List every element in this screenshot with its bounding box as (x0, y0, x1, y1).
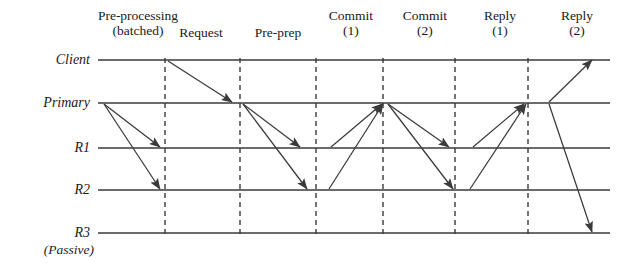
participant-label-r3: R3 (0, 225, 90, 241)
phase-label-pre-processing: Pre-processing(batched) (98, 8, 178, 38)
phase-label-commit-1: Commit(1) (329, 8, 373, 38)
message-arrow-commit1-r1-primary (331, 104, 382, 147)
message-arrow-commit2-primary-r2 (388, 104, 453, 189)
participant-name-r2: R2 (74, 182, 90, 197)
participant-label-r1: R1 (0, 140, 90, 156)
diagram-canvas: ClientPrimaryR1R2R3(Passive) Pre-process… (0, 0, 636, 272)
phase-label-line1-pre-processing: Pre-processing (98, 8, 178, 23)
message-arrow-preproc-primary-r2 (104, 104, 160, 189)
message-arrow-preproc-primary-r1 (104, 104, 160, 147)
phase-label-reply-1: Reply(1) (484, 8, 516, 38)
message-arrow-reply1-r1-primary (473, 104, 524, 147)
phase-label-line2-reply-2: (2) (561, 23, 593, 38)
participant-name-r1: R1 (74, 140, 90, 155)
phase-label-line1-commit-1: Commit (329, 8, 373, 23)
phase-label-request: Request (179, 25, 223, 40)
lifelines-group (98, 60, 610, 233)
phase-label-line1-request: Request (179, 25, 223, 40)
phase-label-line1-commit-2: Commit (403, 8, 447, 23)
phase-label-line2-pre-processing: (batched) (98, 23, 178, 38)
participant-label-client: Client (0, 52, 90, 68)
participant-label-r2: R2 (0, 182, 90, 198)
phase-label-line1-pre-prep: Pre-prep (255, 25, 301, 40)
message-arrow-reply2-primary-r3 (549, 104, 592, 232)
phase-label-line2-reply-1: (1) (484, 23, 516, 38)
message-arrow-reply1-r2-primary (470, 104, 526, 189)
message-arrow-preprep-primary-r1 (243, 104, 300, 147)
participant-name-primary: Primary (43, 95, 90, 110)
message-arrow-preprep-primary-r2 (243, 104, 307, 189)
phase-label-line2-commit-2: (2) (403, 23, 447, 38)
message-arrow-reply2-primary-client (549, 60, 592, 102)
phase-label-line1-reply-1: Reply (484, 8, 516, 23)
participant-label-primary: Primary (0, 95, 90, 111)
phase-label-line1-reply-2: Reply (561, 8, 593, 23)
messages-group (104, 60, 592, 232)
message-arrow-commit1-r2-primary (329, 104, 383, 189)
phase-label-reply-2: Reply(2) (561, 8, 593, 38)
diagram-svg (0, 0, 636, 272)
participant-name-r3: R3 (74, 225, 90, 240)
phase-label-pre-prep: Pre-prep (255, 25, 301, 40)
message-arrow-request-client-primary (168, 61, 232, 102)
message-arrow-commit2-primary-r1 (388, 104, 449, 147)
phase-label-line2-commit-1: (1) (329, 23, 373, 38)
participant-name-client: Client (56, 52, 90, 67)
phase-label-commit-2: Commit(2) (403, 8, 447, 38)
participant-sublabel-r3: (Passive) (0, 242, 94, 258)
